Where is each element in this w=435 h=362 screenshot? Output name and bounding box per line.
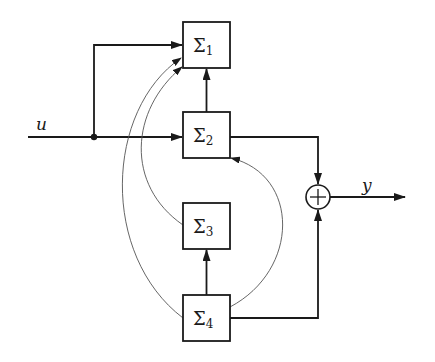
block-diagram: Σ1 Σ2 Σ3 Σ4 u y <box>0 0 435 362</box>
block-sigma2: Σ2 <box>183 112 230 158</box>
u-to-sigma1-wire <box>94 45 182 137</box>
sigma4-to-sigma2-curve <box>230 158 283 307</box>
input-label-u: u <box>36 114 47 134</box>
output-label-y: y <box>361 175 372 195</box>
sigma3-to-sigma1-curve <box>141 67 183 225</box>
block-sigma3: Σ3 <box>183 203 230 249</box>
summing-junction <box>306 185 330 209</box>
block-sigma4: Σ4 <box>183 295 230 341</box>
block-sigma1: Σ1 <box>183 22 230 68</box>
sigma4-to-sum-wire <box>230 210 318 318</box>
sigma2-to-sum-wire <box>230 137 318 184</box>
sigma4-to-sigma1-curve <box>122 58 183 318</box>
